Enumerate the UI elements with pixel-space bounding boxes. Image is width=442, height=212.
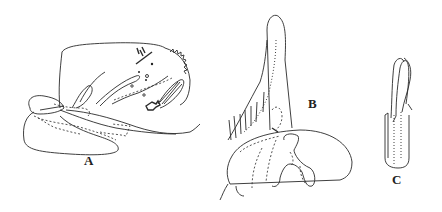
figure-illustration [0, 0, 442, 212]
panel-label-b: B [308, 96, 317, 112]
panel-c-drawing [385, 58, 412, 168]
panel-label-a: A [84, 153, 93, 169]
panel-label-c: C [392, 172, 401, 188]
panel-a-drawing [23, 43, 200, 155]
panel-b-drawing [220, 15, 352, 200]
